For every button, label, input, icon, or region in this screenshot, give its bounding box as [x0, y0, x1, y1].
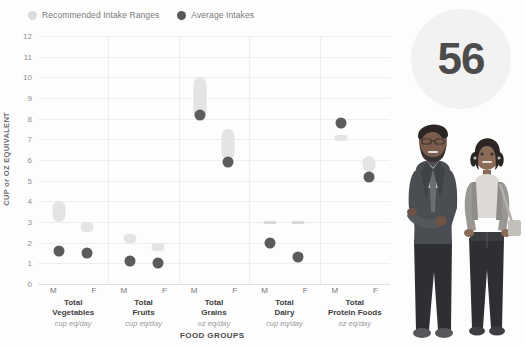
- average-intake-marker: [335, 117, 346, 128]
- sex-tick-row: MF: [38, 286, 108, 295]
- y-axis-tick-label: 3: [28, 218, 32, 227]
- gridline: 9: [38, 98, 390, 99]
- food-group-unit: oz eq/day: [179, 319, 249, 328]
- x-axis-title: FOOD GROUPS: [180, 331, 244, 340]
- recommended-range-marker: [362, 156, 375, 173]
- legend-label-recommended: Recommended Intake Ranges: [42, 10, 159, 20]
- y-axis-tick-label: 0: [28, 280, 32, 289]
- sex-tick-male: M: [191, 286, 198, 295]
- y-axis-tick-label: 1: [28, 259, 32, 268]
- average-intake-marker: [54, 245, 65, 256]
- recommended-range-marker: [264, 221, 277, 224]
- food-group-label: TotalFruits: [108, 298, 178, 318]
- legend-label-average: Average Intakes: [191, 10, 254, 20]
- average-intake-marker: [82, 248, 93, 259]
- panel-separator: [179, 36, 180, 284]
- circle-light-icon: [28, 11, 37, 20]
- y-axis-tick-label: 5: [28, 176, 32, 185]
- y-axis-tick-label: 4: [28, 197, 32, 206]
- gridline: 11: [38, 57, 390, 58]
- y-axis-tick-label: 10: [23, 73, 32, 82]
- sex-tick-row: MF: [320, 286, 390, 295]
- x-axis-groups: MFTotalVegetablescup eq/dayMFTotalFruits…: [38, 286, 390, 332]
- sex-tick-female: F: [373, 286, 378, 295]
- panel-separator: [320, 36, 321, 284]
- food-group-label: TotalDairy: [249, 298, 319, 318]
- y-axis-tick-label: 12: [23, 32, 32, 41]
- gridline: 1: [38, 263, 390, 264]
- legend-item-recommended: Recommended Intake Ranges: [28, 10, 159, 20]
- sex-tick-male: M: [120, 286, 127, 295]
- average-intake-marker: [124, 256, 135, 267]
- recommended-range-marker: [53, 201, 66, 222]
- recommended-range-marker: [222, 129, 235, 160]
- average-intake-marker: [293, 252, 304, 263]
- page-number-value: 56: [438, 34, 485, 84]
- food-group-label: TotalVegetables: [38, 298, 108, 318]
- x-axis-group: MFTotalGrainsoz eq/day: [179, 286, 249, 328]
- average-intake-marker: [265, 237, 276, 248]
- x-axis-group: MFTotalVegetablescup eq/day: [38, 286, 108, 328]
- y-axis-tick-label: 9: [28, 94, 32, 103]
- average-intake-marker: [363, 171, 374, 182]
- x-axis-group: MFTotalFruitscup eq/day: [108, 286, 178, 328]
- people-illustration: [396, 112, 525, 347]
- y-axis-tick-label: 2: [28, 238, 32, 247]
- sex-tick-female: F: [92, 286, 97, 295]
- sex-tick-female: F: [232, 286, 237, 295]
- gridline: 10: [38, 77, 390, 78]
- chart-legend: Recommended Intake Ranges Average Intake…: [28, 10, 254, 20]
- recommended-range-marker: [123, 234, 136, 242]
- recommended-range-marker: [292, 221, 305, 224]
- food-group-label: TotalProtein Foods: [320, 298, 390, 318]
- sex-tick-female: F: [303, 286, 308, 295]
- panel-separator: [249, 36, 250, 284]
- sex-tick-row: MF: [108, 286, 178, 295]
- panel-separator: [108, 36, 109, 284]
- people-illustration-svg: [396, 112, 525, 347]
- food-group-label: TotalGrains: [179, 298, 249, 318]
- circle-dark-icon: [177, 11, 186, 20]
- legend-item-average: Average Intakes: [177, 10, 254, 20]
- sex-tick-row: MF: [249, 286, 319, 295]
- recommended-range-marker: [151, 243, 164, 251]
- person-casual-illustration: [464, 138, 521, 335]
- chart-plot-area: 1211109876543210: [38, 36, 390, 284]
- infographic-root: Recommended Intake Ranges Average Intake…: [0, 0, 525, 347]
- y-axis-title: CUP or OZ EQUIVALENT: [2, 112, 11, 206]
- gridline: 6: [38, 160, 390, 161]
- recommended-range-marker: [81, 222, 94, 232]
- x-axis-group: MFTotalProtein Foodsoz eq/day: [320, 286, 390, 328]
- person-suit-illustration: [407, 125, 457, 338]
- gridline: 2: [38, 243, 390, 244]
- average-intake-marker: [152, 258, 163, 269]
- recommended-range-marker: [334, 135, 347, 141]
- food-group-unit: cup eq/day: [38, 319, 108, 328]
- y-axis-tick-label: 8: [28, 114, 32, 123]
- sex-tick-male: M: [261, 286, 268, 295]
- food-group-unit: oz eq/day: [320, 319, 390, 328]
- food-group-unit: cup eq/day: [108, 319, 178, 328]
- y-axis-tick-label: 6: [28, 156, 32, 165]
- y-axis-tick-label: 7: [28, 135, 32, 144]
- x-axis-group: MFTotalDairycup eq/day: [249, 286, 319, 328]
- average-intake-marker: [194, 109, 205, 120]
- gridline: 12: [38, 36, 390, 37]
- y-axis-tick-label: 11: [24, 52, 32, 61]
- sex-tick-female: F: [162, 286, 167, 295]
- page-number-badge: 56: [411, 9, 511, 109]
- sex-tick-row: MF: [179, 286, 249, 295]
- gridline: 5: [38, 181, 390, 182]
- gridline: 0: [38, 284, 390, 285]
- food-group-unit: cup eq/day: [249, 319, 319, 328]
- sex-tick-male: M: [50, 286, 57, 295]
- average-intake-marker: [223, 157, 234, 168]
- sex-tick-male: M: [332, 286, 339, 295]
- gridline: 4: [38, 201, 390, 202]
